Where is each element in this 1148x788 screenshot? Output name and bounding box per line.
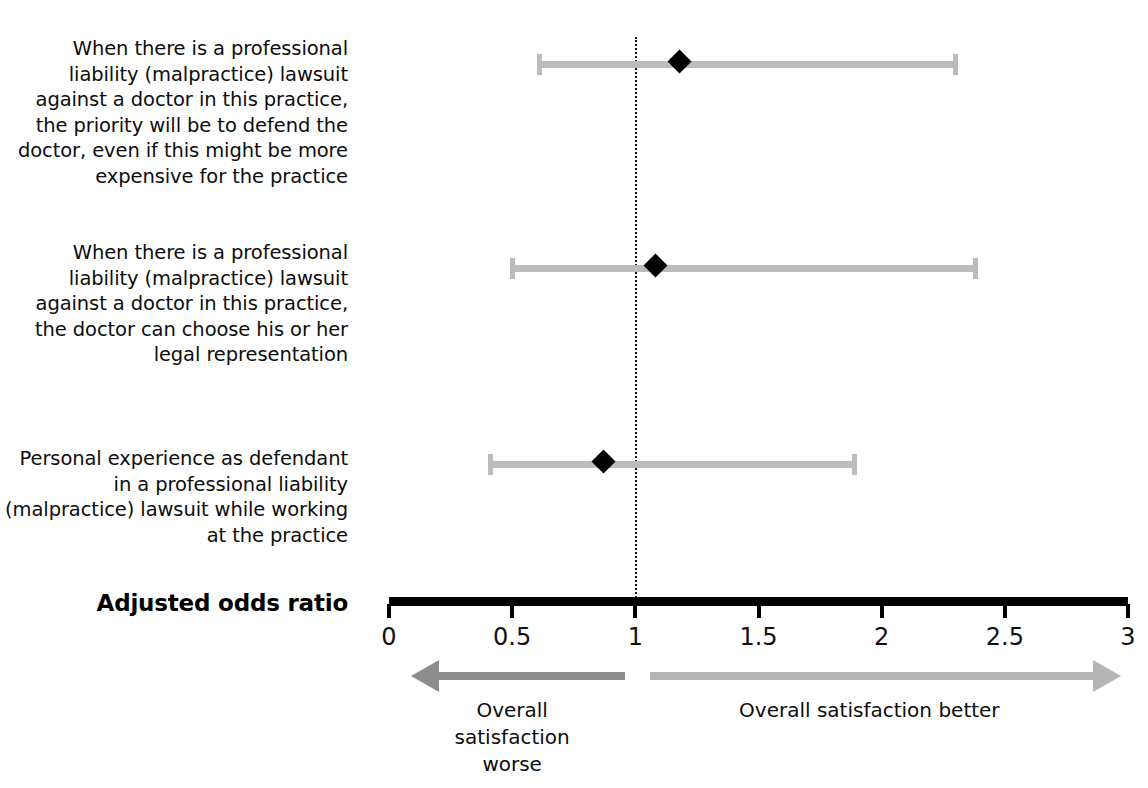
ci-bar-1	[510, 265, 978, 272]
ci-row-2	[0, 447, 1148, 481]
arrow-head-right	[1093, 660, 1121, 692]
ci-cap-high-1	[973, 258, 978, 279]
ci-bar-2	[488, 461, 858, 468]
forest-plot-figure: When there is a professional liability (…	[0, 0, 1148, 788]
ci-cap-low-0	[537, 54, 542, 75]
ci-cap-high-2	[852, 454, 857, 475]
arrow-head-left	[411, 660, 439, 692]
x-tick-1	[633, 604, 637, 618]
odds-ratio-marker-2	[591, 449, 615, 473]
ci-bar-0	[537, 61, 958, 68]
x-tick-label-1: 1	[628, 623, 643, 651]
x-tick-label-3: 3	[1120, 623, 1135, 651]
ci-cap-low-2	[488, 454, 493, 475]
x-tick-0	[387, 604, 391, 618]
reference-line-at-one	[635, 37, 637, 605]
x-tick-label-0: 0	[381, 623, 396, 651]
ci-cap-low-1	[510, 258, 515, 279]
ci-cap-high-0	[953, 54, 958, 75]
caption-satisfaction-worse: Overall satisfaction worse	[427, 697, 597, 778]
x-tick-label-0.5: 0.5	[493, 623, 531, 651]
x-tick-label-2.5: 2.5	[986, 623, 1024, 651]
arrow-shaft-right	[650, 672, 1096, 680]
arrow-shaft-left	[435, 672, 625, 680]
x-tick-label-1.5: 1.5	[739, 623, 777, 651]
odds-ratio-marker-0	[668, 49, 692, 73]
x-tick-2	[880, 604, 884, 618]
x-tick-2.5	[1003, 604, 1007, 618]
plot-area: 00.511.522.53 Overall satisfaction worse…	[0, 0, 1148, 788]
odds-ratio-marker-1	[643, 253, 667, 277]
ci-row-1	[0, 251, 1148, 285]
caption-satisfaction-better: Overall satisfaction better	[699, 697, 1039, 724]
x-tick-3	[1126, 604, 1130, 618]
ci-row-0	[0, 47, 1148, 81]
x-tick-0.5	[510, 604, 514, 618]
x-tick-1.5	[757, 604, 761, 618]
x-tick-label-2: 2	[874, 623, 889, 651]
